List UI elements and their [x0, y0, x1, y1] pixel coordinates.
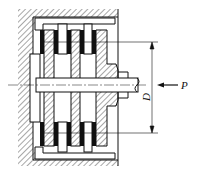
diameter-label: D: [140, 93, 152, 102]
force-arrow: [157, 83, 178, 88]
force-label: P: [180, 79, 188, 91]
clutch-drawing: D P: [0, 0, 199, 177]
